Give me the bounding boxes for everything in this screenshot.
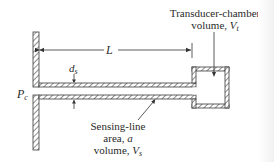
left-wall-lower bbox=[33, 95, 39, 150]
transducer-chamber bbox=[192, 67, 229, 108]
diameter-label: ds bbox=[69, 62, 78, 76]
page-edge-shade bbox=[258, 0, 274, 162]
transducer-label-line1: Transducer-chamber bbox=[170, 7, 261, 19]
transducer-label-line2: volume, Vt bbox=[191, 19, 239, 33]
left-wall-upper bbox=[33, 32, 39, 87]
diameter-dimension bbox=[72, 74, 76, 109]
length-dimension bbox=[40, 43, 193, 58]
sensing-pointer-arrow bbox=[138, 99, 156, 120]
tube-top-wall bbox=[39, 83, 196, 87]
diagram-canvas: L ds Pc Transducer-chamber volume, Vt Se… bbox=[0, 0, 274, 162]
length-label: L bbox=[105, 43, 113, 57]
sensing-label-line1: Sensing-line bbox=[91, 120, 146, 132]
tube-bottom-wall bbox=[39, 95, 196, 99]
pressure-label: Pc bbox=[16, 87, 28, 102]
sensing-label-line3: volume, Vs bbox=[94, 144, 142, 158]
sensing-label-line2: area, a bbox=[103, 132, 133, 144]
